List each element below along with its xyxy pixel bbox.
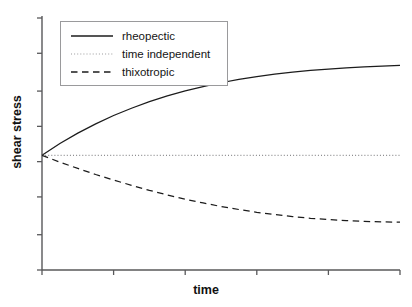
legend-entry-thixotropic: thixotropic: [61, 62, 227, 82]
chart-figure: rheopectic time independent thixotropic …: [0, 0, 412, 307]
legend-label-thixotropic: thixotropic: [122, 65, 174, 79]
x-axis-title: time: [0, 283, 412, 297]
chart-legend: rheopectic time independent thixotropic: [60, 21, 228, 86]
series-thixotropic: [42, 155, 400, 222]
legend-swatch-solid-icon: [70, 29, 114, 43]
legend-entry-rheopectic: rheopectic: [61, 26, 227, 46]
legend-swatch-dashed-icon: [70, 65, 114, 79]
legend-label-time-independent: time independent: [122, 47, 210, 61]
legend-swatch-dotted-icon: [70, 47, 114, 61]
legend-label-rheopectic: rheopectic: [122, 29, 175, 43]
y-axis-title: shear stress: [10, 82, 24, 182]
series-group: [42, 65, 400, 222]
legend-entry-time-independent: time independent: [61, 44, 227, 64]
